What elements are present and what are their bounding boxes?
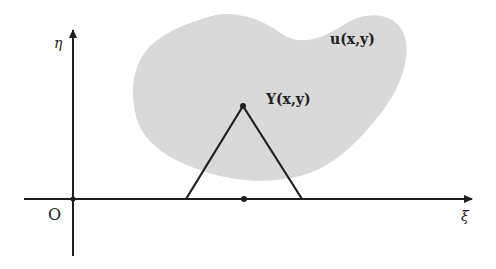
eta-axis-label: η <box>54 36 62 50</box>
apex-point <box>240 103 246 109</box>
diagram-canvas <box>0 0 496 269</box>
origin-label: O <box>48 207 61 223</box>
region-u-label: u(x,y) <box>330 32 375 46</box>
xi-axis-label: ξ <box>461 209 469 223</box>
origin-point <box>71 197 76 202</box>
apex-label: Υ(x,y) <box>266 92 311 106</box>
base-mid-point <box>241 196 247 202</box>
